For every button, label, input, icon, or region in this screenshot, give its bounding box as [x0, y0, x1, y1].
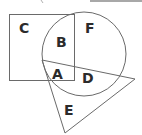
- region-label-a: A: [52, 66, 63, 82]
- region-label-e: E: [64, 102, 74, 118]
- region-label-f: F: [85, 20, 95, 36]
- cropped-top-bar: [90, 0, 142, 2]
- region-diagram: C B F A D E: [0, 0, 142, 135]
- region-label-d: D: [82, 70, 94, 86]
- region-label-b: B: [56, 34, 67, 50]
- cropped-top-mark: [41, 0, 43, 3]
- region-label-c: C: [19, 20, 29, 36]
